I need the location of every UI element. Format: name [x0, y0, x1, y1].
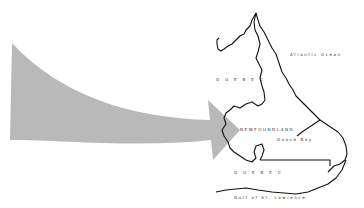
- coastline-outline: [216, 13, 347, 194]
- label-atlantic-ocean: Atlantic Ocean: [290, 52, 342, 57]
- label-gulf-st-lawrence: Gulf of St. Lawrence: [234, 195, 306, 200]
- label-quebec-south: QUEBEC: [234, 170, 287, 175]
- label-newfoundland: NEWFOUNDLAND: [240, 127, 294, 132]
- map-figure: Atlantic Ocean QUEBEC NEWFOUNDLAND Goose…: [0, 0, 364, 208]
- map-svg: [0, 0, 364, 208]
- label-quebec-north: QUEBEC: [216, 77, 269, 82]
- label-goose-bay: Goose Bay: [277, 137, 313, 142]
- curved-arrow-icon: [10, 43, 240, 160]
